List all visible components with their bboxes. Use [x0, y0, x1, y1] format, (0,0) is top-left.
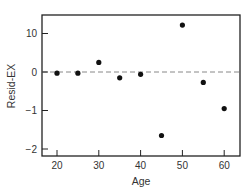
data-point: [54, 71, 59, 76]
x-tick-label: 60: [219, 160, 231, 171]
y-tick-label: −1: [26, 105, 38, 116]
y-axis-ticks: 100−1−2: [26, 28, 48, 155]
y-tick-label: −2: [26, 144, 38, 155]
x-tick-label: 50: [177, 160, 189, 171]
data-point: [96, 60, 101, 65]
data-point: [138, 72, 143, 77]
data-points: [54, 22, 226, 138]
residual-scatter-plot: 100−1−2 2030405060 Age Resid-EX: [0, 0, 250, 193]
data-point: [222, 106, 227, 111]
data-point: [75, 71, 80, 76]
x-axis-ticks: 2030405060: [51, 150, 230, 171]
y-tick-label: 0: [31, 67, 37, 78]
data-point: [159, 133, 164, 138]
y-tick-label: 10: [26, 28, 38, 39]
plot-frame: [42, 15, 240, 156]
x-tick-label: 40: [135, 160, 147, 171]
y-axis-label: Resid-EX: [5, 64, 17, 108]
x-tick-label: 20: [51, 160, 63, 171]
x-tick-label: 30: [93, 160, 105, 171]
x-axis-label: Age: [132, 175, 151, 187]
data-point: [201, 80, 206, 85]
data-point: [180, 22, 185, 27]
data-point: [117, 75, 122, 80]
